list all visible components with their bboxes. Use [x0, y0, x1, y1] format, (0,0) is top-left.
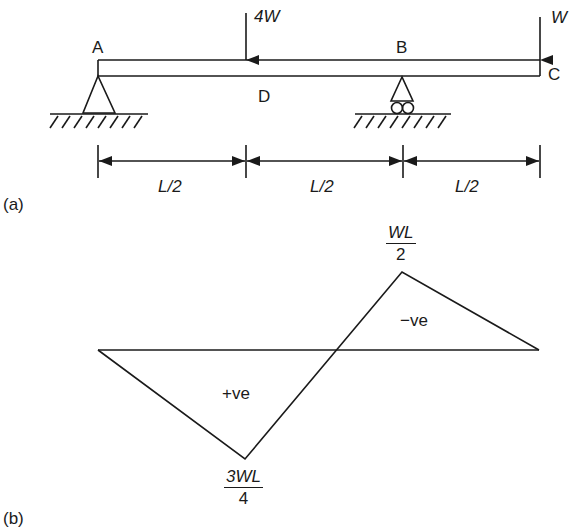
bending-moment-diagram — [98, 272, 539, 459]
point-c-label: C — [548, 66, 560, 83]
peak-positive-numerator: 3WL — [224, 468, 263, 488]
point-b-label: B — [396, 39, 407, 56]
peak-negative-label: WL 2 — [386, 224, 416, 263]
point-a-label: A — [92, 39, 103, 56]
region-positive-label: +ve — [222, 385, 250, 402]
peak-positive-denominator: 4 — [239, 488, 248, 507]
dimension-label-1: L/2 — [158, 178, 182, 195]
beam-diagram — [0, 0, 569, 529]
pin-support-icon — [50, 76, 148, 128]
region-negative-label: −ve — [400, 312, 428, 329]
peak-negative-denominator: 2 — [396, 244, 405, 263]
point-d-label: D — [258, 88, 270, 105]
dimension-label-2: L/2 — [310, 178, 334, 195]
dimension-label-3: L/2 — [455, 178, 479, 195]
caption-b: (b) — [3, 510, 24, 527]
load-w-label: W — [551, 9, 567, 26]
peak-negative-numerator: WL — [386, 224, 416, 244]
peak-positive-label: 3WL 4 — [224, 468, 263, 507]
bmd-curve — [98, 272, 539, 459]
dimension-lines — [98, 145, 540, 178]
caption-a: (a) — [3, 196, 24, 213]
beam — [98, 60, 540, 76]
load-4w-label: 4W — [254, 8, 280, 25]
roller-support-icon — [354, 77, 451, 128]
